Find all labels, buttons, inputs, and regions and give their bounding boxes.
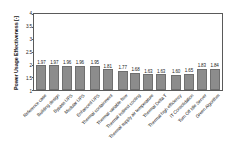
bar-value-label: 1.77 [119,65,127,70]
chart-figure: Power Usage Effectiveness [-] 11.522.533… [0,0,235,151]
y-axis-tick-label: 3.5 [20,24,32,29]
bar-value-label: 1.96 [63,60,71,65]
bar-item: 1.84 [208,14,221,90]
bar [171,75,181,90]
y-axis-tick-label: 1.5 [20,76,32,81]
bar [130,73,140,90]
bar-value-label: 1.97 [37,60,45,65]
bar [156,74,166,90]
plot-area: 1.971.971.961.961.951.811.771.681.631.63… [33,13,223,91]
bar-value-label: 1.63 [144,69,152,74]
bar [103,69,113,90]
y-axis-tick-label: 4 [20,11,32,16]
bar [210,69,220,90]
bar-item: 1.83 [195,14,208,90]
bar-item: 1.63 [155,14,168,90]
bar [49,65,59,90]
bar-value-label: 1.96 [76,60,84,65]
bar-value-label: 1.81 [104,64,112,69]
bar-value-label: 1.84 [210,63,218,68]
bar-item: 1.81 [101,14,114,90]
bar [90,66,100,90]
bar-value-label: 1.83 [198,63,206,68]
bar [36,65,46,90]
bar-item: 1.63 [142,14,155,90]
bar-value-label: 1.63 [157,69,165,74]
bar-value-label: 1.95 [91,60,99,65]
bar-series: 1.971.971.961.961.951.811.771.681.631.63… [34,14,222,90]
bar-value-label: 1.68 [131,67,139,72]
bar-item: 1.97 [48,14,61,90]
bar-item: 1.60 [170,14,183,90]
bar-item: 1.68 [129,14,142,90]
bar-item: 1.95 [88,14,101,90]
bar-value-label: 1.60 [172,69,180,74]
bar-item: 1.96 [61,14,74,90]
bar [197,69,207,90]
bar [143,74,153,90]
bar [62,66,72,90]
bar [184,74,194,90]
y-axis-title-text: Power Usage Effectiveness [-] [13,16,19,90]
bar [75,66,85,90]
bar-value-label: 1.65 [185,68,193,73]
y-axis-tick-label: 1 [20,89,32,94]
bar-item: 1.96 [73,14,86,90]
y-axis-tick-label: 2 [20,63,32,68]
y-axis-tick-labels: 11.522.533.54 [20,13,32,91]
bar [118,71,128,91]
bar-item: 1.77 [116,14,129,90]
x-axis-category-labels: Reference caseBuilding designBypass UPSM… [33,91,223,149]
y-axis-tick-label: 3 [20,37,32,42]
y-axis-tick-label: 2.5 [20,50,32,55]
bar-value-label: 1.97 [50,60,58,65]
bar-item: 1.65 [183,14,196,90]
bar-item: 1.97 [35,14,48,90]
